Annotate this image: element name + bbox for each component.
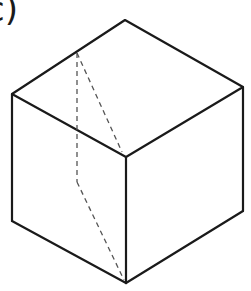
cube-bottom-left-edge (12, 221, 126, 283)
dashed-lower-diagonal (77, 182, 124, 280)
cube-top-face (12, 20, 243, 157)
dashed-upper-diagonal (77, 53, 122, 152)
cube-diagram (0, 0, 251, 291)
cube-bottom-right-edge (126, 211, 243, 283)
